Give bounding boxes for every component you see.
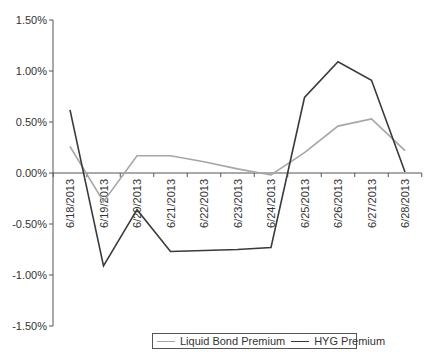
x-tick-label: 6/28/2013 (399, 179, 411, 228)
y-tick-label: -1.50% (12, 320, 47, 332)
x-tick-label: 6/23/2013 (232, 179, 244, 228)
legend-swatch-hyg (291, 341, 309, 342)
y-tick-label: 1.00% (16, 65, 47, 77)
x-tick-label: 6/22/2013 (198, 179, 210, 228)
series-lines (70, 62, 405, 266)
legend-label-hyg: HYG Premium (314, 335, 385, 347)
line-chart: 1.50%1.00%0.50%0.00%-0.50%-1.00%-1.50% 6… (0, 0, 435, 358)
legend-label-liquid-bond: Liquid Bond Premium (180, 335, 285, 347)
y-tick-label: 0.00% (16, 167, 47, 179)
x-tick-label: 6/21/2013 (165, 179, 177, 228)
x-tick-label: 6/19/2013 (98, 179, 110, 228)
x-tick-label: 6/25/2013 (299, 179, 311, 228)
legend-item-liquid-bond: Liquid Bond Premium (157, 335, 285, 347)
series-line-1 (70, 62, 405, 266)
y-tick-label: -1.00% (12, 269, 47, 281)
x-tick-label: 6/26/2013 (332, 179, 344, 228)
x-tick-label: 6/24/2013 (265, 179, 277, 228)
x-tick-label: 6/18/2013 (64, 179, 76, 228)
x-axis: 6/18/20136/19/20136/20/20136/21/20136/22… (53, 173, 422, 228)
legend: Liquid Bond Premium HYG Premium (152, 333, 357, 349)
x-tick-label: 6/27/2013 (366, 179, 378, 228)
x-tick-label: 6/20/2013 (131, 179, 143, 228)
y-axis: 1.50%1.00%0.50%0.00%-0.50%-1.00%-1.50% (12, 14, 53, 332)
y-tick-label: -0.50% (12, 218, 47, 230)
legend-swatch-liquid-bond (157, 341, 175, 342)
y-tick-label: 1.50% (16, 14, 47, 26)
legend-item-hyg: HYG Premium (291, 335, 385, 347)
y-tick-label: 0.50% (16, 116, 47, 128)
